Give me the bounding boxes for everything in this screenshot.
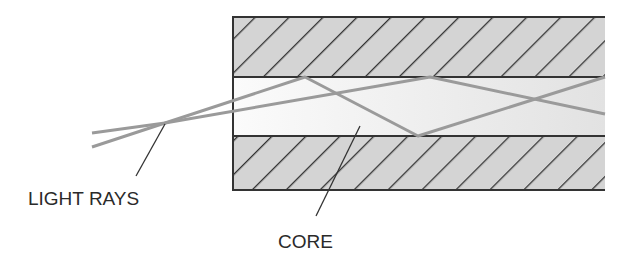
- fiber-core: [233, 77, 605, 136]
- light-rays-label: LIGHT RAYS: [28, 188, 139, 209]
- bottom-cladding: [233, 136, 605, 190]
- core-label: CORE: [278, 231, 333, 252]
- top-cladding: [233, 17, 605, 77]
- optical-fiber-diagram: LIGHT RAYS CORE: [0, 0, 629, 262]
